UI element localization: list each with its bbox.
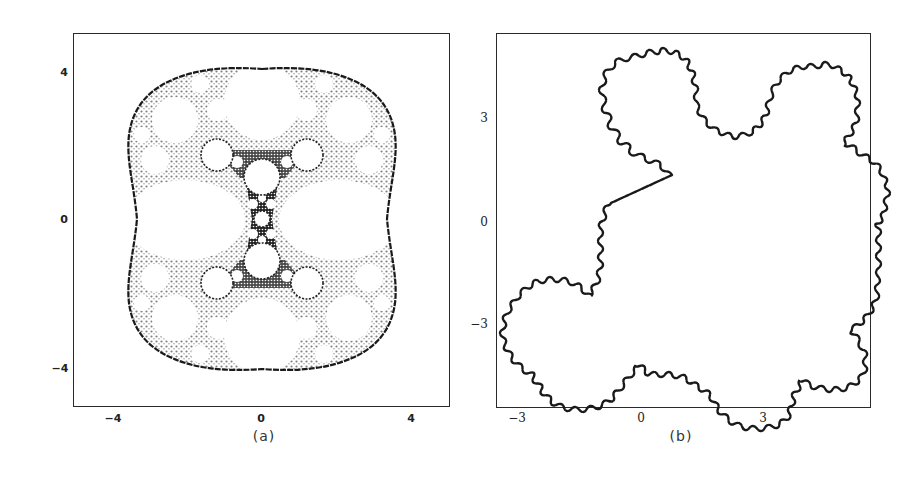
panel-b-caption: (b) (670, 428, 693, 444)
panel-b-ytick-2: 0 (480, 215, 488, 229)
panel-b-fractal-curve (0, 0, 920, 478)
panel-b-ytick-1: 3 (480, 111, 488, 125)
panel-b-ytick-3: −3 (470, 317, 488, 331)
panel-b-xtick-3: 3 (759, 411, 767, 425)
panel-b-xtick-1: −3 (508, 411, 526, 425)
panel-b-xtick-2: 0 (637, 411, 645, 425)
